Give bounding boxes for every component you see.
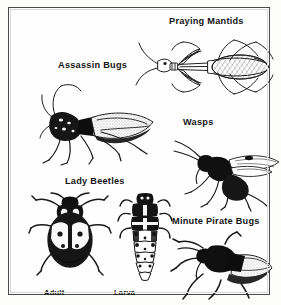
label-wasps: Wasps	[183, 118, 214, 127]
lady-beetle-larva-illustration	[114, 190, 176, 282]
label-assassin-bugs: Assassin Bugs	[58, 61, 127, 70]
label-larva: Larva	[114, 289, 135, 297]
minute-pirate-bug-illustration	[169, 230, 277, 302]
label-lady-beetles: Lady Beetles	[65, 177, 125, 186]
lady-beetle-adult-illustration	[29, 190, 111, 282]
wasp-illustration	[171, 134, 281, 212]
insect-identification-figure: Praying Mantids Assassin Bugs Wasps Lady…	[0, 0, 281, 305]
label-adult: Adult	[44, 289, 64, 297]
figure-border: Praying Mantids Assassin Bugs Wasps Lady…	[8, 7, 270, 295]
label-praying-mantids: Praying Mantids	[169, 17, 244, 26]
assassin-bug-illustration	[31, 78, 166, 166]
label-minute-pirate-bugs: Minute Pirate Bugs	[172, 217, 260, 226]
